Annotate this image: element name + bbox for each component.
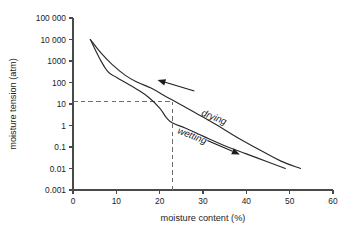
x-tick-label: 20: [155, 196, 165, 206]
x-axis-ticks: [73, 190, 333, 194]
y-tick-label: 0.01: [50, 164, 67, 174]
chart-container: 100 00010 00010001001010.10.010.001 0102…: [0, 0, 353, 232]
x-tick-label: 40: [242, 196, 252, 206]
y-tick-label: 1: [61, 121, 66, 131]
y-tick-label: 10 000: [40, 35, 66, 45]
x-axis-tick-labels: 0102030405060: [71, 196, 338, 206]
x-tick-label: 0: [71, 196, 76, 206]
curve-wetting: [90, 40, 285, 169]
x-tick-label: 60: [328, 196, 338, 206]
reference-lines-group: [73, 102, 173, 190]
x-axis-title: moisture content (%): [161, 213, 246, 223]
data-series-group: [90, 40, 300, 169]
y-tick-label: 0.1: [54, 142, 66, 152]
drying-label-arrow-shaft: [165, 82, 194, 91]
x-tick-label: 30: [198, 196, 208, 206]
wetting-label: wetting: [176, 125, 209, 147]
curve-drying: [90, 40, 300, 169]
y-tick-label: 1000: [47, 56, 66, 66]
y-axis-tick-labels: 100 00010 00010001001010.10.010.001: [36, 13, 67, 195]
x-tick-label: 10: [112, 196, 122, 206]
y-tick-label: 0.001: [45, 185, 66, 195]
y-tick-label: 10: [57, 99, 67, 109]
y-axis-title: moisture tension (atm): [8, 58, 18, 149]
y-axis-ticks: [69, 18, 73, 190]
hysteresis-chart: 100 00010 00010001001010.10.010.001 0102…: [0, 0, 353, 232]
annotations-group: dryingwetting: [158, 79, 240, 154]
wetting-label-arrow-shaft: [207, 141, 232, 152]
x-tick-label: 50: [285, 196, 295, 206]
y-tick-label: 100 000: [36, 13, 67, 23]
axes-group: [73, 18, 333, 190]
drying-label-arrow-head: [158, 79, 167, 85]
y-tick-label: 100: [52, 78, 66, 88]
